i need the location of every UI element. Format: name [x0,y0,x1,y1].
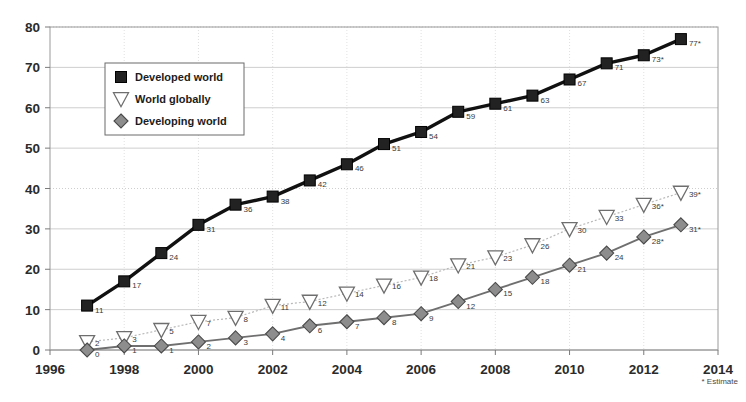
data-label-developing-world: 1 [169,346,174,355]
data-label-world-globally: 7 [206,319,211,328]
data-label-developing-world: 31* [689,225,701,234]
data-label-developing-world: 8 [392,318,397,327]
legend-label-developed-world: Developed world [135,71,223,83]
data-point-developed-world [527,90,538,101]
data-label-developed-world: 11 [95,306,104,315]
data-label-developing-world: 3 [244,338,249,347]
data-label-developed-world: 54 [429,132,438,141]
x-axis-label-2002: 2002 [258,362,288,377]
data-label-developing-world: 18 [540,277,549,286]
chart-background [0,0,746,402]
data-label-world-globally: 12 [318,299,327,308]
data-label-world-globally: 23 [503,254,512,263]
x-axis-label-1996: 1996 [35,362,66,377]
y-axis-label-10: 10 [25,303,40,318]
x-axis-label-2012: 2012 [629,362,659,377]
data-label-developed-world: 38 [281,197,290,206]
data-point-developed-world [119,276,130,287]
data-label-developed-world: 67 [578,79,587,88]
data-label-developed-world: 61 [503,104,512,113]
y-axis-label-30: 30 [25,222,40,237]
data-label-world-globally: 11 [281,303,290,312]
data-point-developed-world [193,219,204,230]
data-label-developing-world: 28* [652,237,664,246]
x-axis-label-1998: 1998 [109,362,140,377]
data-label-developed-world: 71 [615,63,624,72]
data-label-developed-world: 77* [689,39,701,48]
data-label-world-globally: 39* [689,190,701,199]
footnote: * Estimate [702,377,739,386]
y-axis-label-70: 70 [25,60,40,75]
x-axis-label-2006: 2006 [406,362,437,377]
chart-legend: Developed worldWorld globallyDeveloping … [105,63,244,135]
y-axis-label-0: 0 [32,343,40,358]
data-point-developed-world [341,159,352,170]
data-label-developing-world: 2 [206,342,211,351]
data-point-developed-world [82,300,93,311]
data-point-developed-world [638,50,649,61]
data-label-developing-world: 1 [132,346,137,355]
legend-label-world-globally: World globally [135,93,211,105]
chart-container: 11172431363842465154596163677173*77*2357… [0,0,746,402]
data-label-world-globally: 14 [355,290,364,299]
y-axis-label-50: 50 [25,141,40,156]
data-label-developing-world: 24 [615,253,624,262]
data-label-world-globally: 16 [392,282,401,291]
data-point-developed-world [156,248,167,259]
legend-label-developing-world: Developing world [135,115,227,127]
data-label-developed-world: 73* [652,55,664,64]
data-label-developed-world: 42 [318,180,327,189]
data-label-world-globally: 5 [169,327,174,336]
data-label-world-globally: 3 [132,335,137,344]
data-label-developing-world: 6 [318,326,323,335]
x-axis-label-2000: 2000 [183,362,213,377]
data-point-developed-world [453,106,464,117]
data-point-developed-world [416,126,427,137]
data-label-world-globally: 36* [652,202,664,211]
data-point-developed-world [304,175,315,186]
data-label-world-globally: 2 [95,339,100,348]
data-label-developing-world: 0 [95,350,100,359]
data-point-developed-world [230,199,241,210]
x-axis-label-2004: 2004 [332,362,363,377]
data-label-developing-world: 12 [466,302,475,311]
data-point-developed-world [267,191,278,202]
x-axis-label-2010: 2010 [555,362,585,377]
data-label-developed-world: 36 [244,205,253,214]
data-label-world-globally: 30 [578,226,587,235]
y-axis-label-60: 60 [25,101,40,116]
legend-marker-square [116,72,127,83]
data-label-developed-world: 31 [206,225,215,234]
data-label-developing-world: 9 [429,314,434,323]
data-label-world-globally: 8 [244,315,249,324]
line-chart: 11172431363842465154596163677173*77*2357… [0,0,746,402]
data-label-world-globally: 26 [540,242,549,251]
data-label-developed-world: 17 [132,281,141,290]
data-label-developed-world: 63 [540,96,549,105]
data-label-world-globally: 21 [466,262,475,271]
data-point-developed-world [601,58,612,69]
data-label-developed-world: 46 [355,164,364,173]
data-label-developed-world: 24 [169,253,178,262]
data-label-world-globally: 33 [615,214,624,223]
data-label-developing-world: 15 [503,289,512,298]
x-axis-label-2008: 2008 [480,362,511,377]
data-point-developed-world [379,139,390,150]
data-label-developed-world: 59 [466,112,475,121]
data-label-developing-world: 4 [281,334,286,343]
y-axis-label-20: 20 [25,262,40,277]
data-label-developed-world: 51 [392,144,401,153]
data-label-developing-world: 7 [355,322,360,331]
y-axis-label-80: 80 [25,20,40,35]
data-point-developed-world [675,34,686,45]
y-axis-label-40: 40 [25,182,40,197]
data-label-developing-world: 21 [578,265,587,274]
data-point-developed-world [564,74,575,85]
x-axis-label-2014: 2014 [703,362,734,377]
data-point-developed-world [490,98,501,109]
data-label-world-globally: 18 [429,274,438,283]
y-axis-tick-labels: 01020304050607080 [25,20,40,358]
